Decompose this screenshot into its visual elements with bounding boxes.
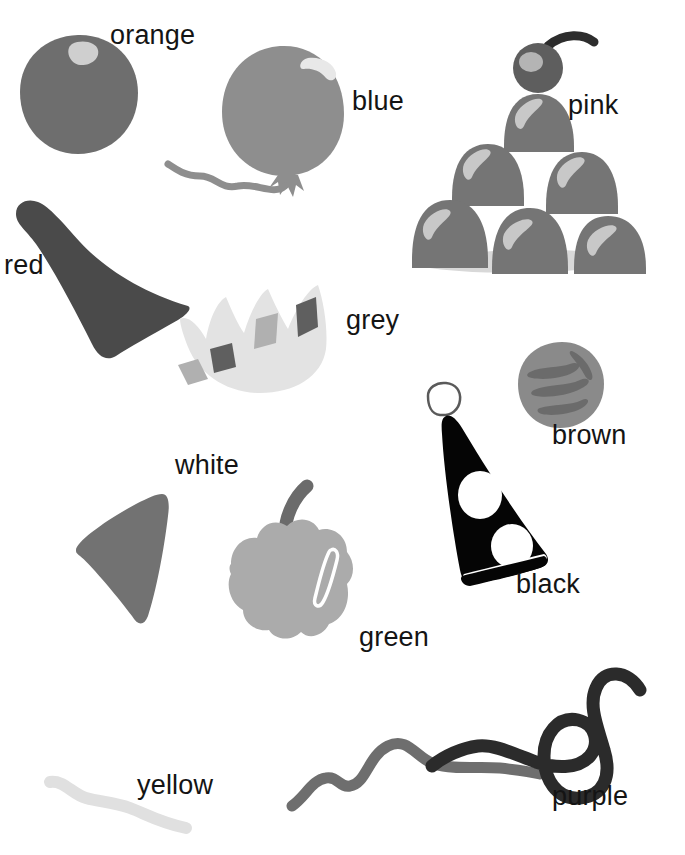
color-label-purple: purple: [552, 783, 628, 810]
color-label-brown: brown: [552, 422, 627, 449]
illustration-page: orange blue pink red grey brown white bl…: [0, 0, 685, 855]
color-label-black: black: [516, 571, 580, 598]
color-label-white: white: [175, 452, 239, 479]
color-label-orange: orange: [110, 22, 195, 49]
color-label-green: green: [359, 624, 429, 651]
color-label-blue: blue: [352, 88, 404, 115]
color-label-pink: pink: [568, 92, 618, 119]
white-cone-drawing: [70, 480, 196, 630]
black-party-hat-drawing: [408, 378, 564, 590]
color-label-red: red: [4, 252, 44, 279]
grey-crown-drawing: [174, 281, 340, 397]
pink-stack-drawing: [398, 28, 664, 284]
green-bell-pepper-drawing: [213, 480, 369, 650]
blue-balloon-drawing: [158, 36, 346, 206]
color-label-yellow: yellow: [137, 772, 213, 799]
color-label-grey: grey: [346, 307, 399, 334]
